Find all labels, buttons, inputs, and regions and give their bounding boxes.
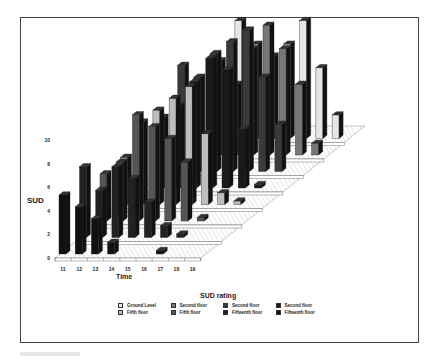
- bar: [112, 164, 123, 238]
- bar: [91, 215, 102, 254]
- bar: [75, 204, 86, 254]
- legend-item: Fifth floor: [171, 310, 224, 315]
- x-tick-label: 15: [122, 266, 134, 272]
- x-tick-label: 13: [89, 266, 101, 272]
- x-tick-label: 19: [187, 266, 199, 272]
- bar: [259, 74, 270, 172]
- legend-item: Second floor: [223, 303, 276, 308]
- bar: [238, 126, 249, 188]
- bar: [181, 159, 192, 221]
- legend-swatch-icon: [118, 303, 123, 308]
- bar: [218, 190, 229, 205]
- legend-label: Second floor: [180, 303, 208, 308]
- chart-bars: [59, 17, 343, 254]
- x-tick-label: 16: [138, 266, 150, 272]
- legend-item: Fifth floor: [118, 310, 171, 315]
- y-tick-label: 8: [38, 161, 50, 167]
- legend-swatch-icon: [276, 310, 281, 315]
- legend-label: Fifteenth floor: [285, 310, 315, 315]
- legend-label: Fifth floor: [127, 310, 148, 315]
- bar: [222, 67, 233, 188]
- y-tick-label: 10: [38, 137, 50, 143]
- legend-label: Fifteenth floor: [232, 310, 262, 315]
- legend-swatch-icon: [223, 310, 228, 315]
- y-axis-label: SUD: [27, 196, 44, 205]
- legend-title: SUD rating: [200, 292, 236, 299]
- legend-label: Ground Level: [127, 303, 156, 308]
- bar: [202, 131, 213, 205]
- legend-swatch-icon: [118, 310, 123, 315]
- x-tick-label: 18: [170, 266, 182, 272]
- legend-item: Ground Level: [118, 303, 171, 308]
- caption-fragment: [20, 352, 80, 356]
- bar: [128, 175, 139, 237]
- x-axis-label: Time: [116, 273, 132, 280]
- bar: [165, 135, 176, 221]
- legend-item: Fifteenth floor: [276, 310, 329, 315]
- bar: [59, 192, 70, 254]
- bar: [295, 81, 306, 155]
- bar: [312, 140, 323, 155]
- legend-item: Second floor: [171, 303, 224, 308]
- legend-swatch-icon: [171, 303, 176, 308]
- legend-label: Second floor: [285, 303, 313, 308]
- legend-swatch-icon: [276, 303, 281, 308]
- y-tick-label: 6: [38, 184, 50, 190]
- x-tick-label: 11: [57, 266, 69, 272]
- x-tick-label: 14: [106, 266, 118, 272]
- bar: [332, 112, 343, 139]
- y-tick-label: 0: [38, 255, 50, 261]
- legend-label: Second floor: [232, 303, 260, 308]
- bar: [316, 65, 327, 139]
- x-tick-label: 12: [73, 266, 85, 272]
- legend-swatch-icon: [223, 303, 228, 308]
- x-tick-label: 17: [154, 266, 166, 272]
- y-tick-label: 4: [38, 208, 50, 214]
- legend-label: Fifth floor: [180, 310, 201, 315]
- legend-item: Second floor: [276, 303, 329, 308]
- y-tick-label: 2: [38, 231, 50, 237]
- legend-swatch-icon: [171, 310, 176, 315]
- bar: [161, 223, 172, 238]
- legend-item: Fifteenth floor: [223, 310, 276, 315]
- bar: [144, 199, 155, 238]
- bar: [275, 121, 286, 171]
- bar: [108, 239, 119, 254]
- legend: Ground LevelSecond floorSecond floorSeco…: [118, 303, 328, 315]
